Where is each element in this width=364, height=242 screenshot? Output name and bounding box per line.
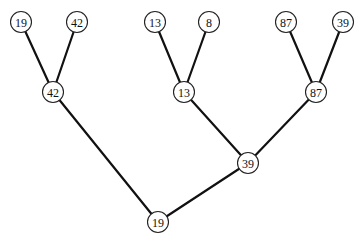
tree-edge xyxy=(155,22,184,92)
tree-edge xyxy=(184,92,248,163)
tree-edge xyxy=(158,163,248,222)
node-label: 42 xyxy=(47,86,59,100)
tree-node: 19 xyxy=(11,12,32,33)
tree-node: 8 xyxy=(199,12,220,33)
node-label: 39 xyxy=(337,16,349,30)
node-label: 42 xyxy=(71,16,83,30)
tree-node: 42 xyxy=(43,82,64,103)
node-label: 13 xyxy=(149,16,161,30)
node-label: 87 xyxy=(310,86,322,100)
node-label: 19 xyxy=(152,216,164,230)
node-label: 8 xyxy=(206,16,212,30)
tree-node: 39 xyxy=(238,153,259,174)
node-label: 13 xyxy=(178,86,190,100)
tree-node: 87 xyxy=(306,82,327,103)
tree-edge xyxy=(286,22,316,92)
tree-node: 39 xyxy=(333,12,354,33)
tree-node: 13 xyxy=(174,82,195,103)
tree-edge xyxy=(316,22,343,92)
node-label: 87 xyxy=(280,16,292,30)
tree-edge xyxy=(53,22,77,92)
tree-diagram: 194213887394213873919 xyxy=(0,0,364,242)
tree-edge xyxy=(53,92,158,222)
node-label: 19 xyxy=(15,16,27,30)
node-label: 39 xyxy=(242,157,254,171)
tree-node: 87 xyxy=(276,12,297,33)
tree-edge xyxy=(248,92,316,163)
tree-node: 42 xyxy=(67,12,88,33)
tree-node: 19 xyxy=(148,212,169,233)
tree-edges xyxy=(21,22,343,222)
tree-edge xyxy=(184,22,209,92)
tree-edge xyxy=(21,22,53,92)
tree-node: 13 xyxy=(145,12,166,33)
tree-nodes: 194213887394213873919 xyxy=(11,12,354,233)
